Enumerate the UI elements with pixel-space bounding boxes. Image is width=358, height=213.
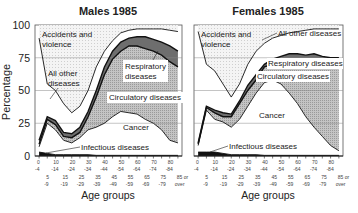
y-tick-100: 100 — [12, 19, 30, 31]
x-tick-label: -9 — [44, 181, 49, 187]
x-tick-label: -34 — [244, 166, 251, 172]
male-cancer-label: Cancer — [123, 123, 149, 132]
x-tick-label: 20 — [70, 159, 76, 165]
x-tick-label: 5 — [205, 174, 208, 180]
x-tick-label: 50 — [279, 159, 285, 165]
x-tick-label: -59 — [126, 181, 133, 187]
x-tick-label: -19 — [61, 181, 68, 187]
x-tick-label: 40 — [262, 159, 268, 165]
male-other-label-2: diseases — [48, 79, 80, 88]
male-infectious-label: Infectious diseases — [81, 143, 149, 152]
x-tick-label: -44 — [260, 166, 267, 172]
y-tick-25: 25 — [18, 117, 30, 129]
x-tick-label: -54 — [277, 166, 284, 172]
x-tick-label: -84 — [326, 166, 333, 172]
x-tick-label: 50 — [119, 159, 125, 165]
x-tick-label: 60 — [135, 159, 141, 165]
male-other-label: All other — [48, 69, 78, 78]
x-tick-label: -54 — [117, 166, 124, 172]
female-infectious-label: Infectious diseases — [229, 142, 297, 151]
x-tick-label: -69 — [142, 181, 149, 187]
x-tick-label: 55 — [128, 174, 134, 180]
females-x-axis-label: Age groups — [241, 189, 295, 201]
male-accidents-label-2: violence — [42, 40, 72, 49]
female-accidents-label-2: violence — [201, 40, 231, 49]
x-tick-label: 5 — [46, 174, 49, 180]
x-tick-label: -14 — [51, 166, 58, 172]
female-cancer-label: Cancer — [259, 111, 285, 120]
x-tick-label: over — [175, 181, 185, 187]
x-tick-label: -39 — [93, 181, 100, 187]
x-tick-label: -59 — [286, 181, 293, 187]
x-tick-label: -24 — [227, 166, 234, 172]
x-tick-label: 70 — [151, 159, 157, 165]
x-tick-label: 60 — [295, 159, 301, 165]
x-tick-label: 75 — [321, 174, 327, 180]
x-tick-label: 25 — [238, 174, 244, 180]
x-tick-label: -4 — [194, 166, 199, 172]
female-other-label: All other diseases — [278, 29, 341, 38]
x-tick-label: -34 — [84, 166, 91, 172]
x-tick-label: 45 — [112, 174, 118, 180]
x-tick-label: 45 — [272, 174, 278, 180]
y-tick-75: 75 — [18, 52, 30, 64]
x-tick-label: 0 — [37, 159, 40, 165]
x-tick-label: 65 — [305, 174, 311, 180]
y-tick-50: 50 — [18, 84, 30, 96]
x-tick-label: 15 — [63, 174, 69, 180]
x-tick-label: 35 — [95, 174, 101, 180]
x-tick-label: 25 — [79, 174, 85, 180]
x-tick-label: -4 — [35, 166, 40, 172]
x-tick-label: -14 — [211, 166, 218, 172]
x-tick-label: -79 — [159, 181, 166, 187]
female-circ-label: Circulatory diseases — [257, 72, 329, 81]
x-tick-label: -39 — [253, 181, 260, 187]
x-tick-label: 30 — [86, 159, 92, 165]
x-tick-label: -64 — [133, 166, 140, 172]
x-tick-label: -79 — [319, 181, 326, 187]
females-panel: 0-45-910-1415-1920-2425-2930-3435-3940-4… — [194, 25, 349, 187]
females-title: Females 1985 — [232, 5, 304, 17]
x-tick-label: -29 — [236, 181, 243, 187]
x-tick-label: -9 — [203, 181, 208, 187]
x-tick-label: -19 — [220, 181, 227, 187]
female-accidents-label: Accidents and — [201, 30, 251, 39]
x-tick-label: 35 — [255, 174, 261, 180]
x-tick-label: 20 — [229, 159, 235, 165]
chart-figure: Percentage 0 25 50 75 100 0-45-910-1415-… — [0, 0, 358, 213]
x-tick-label: 10 — [53, 159, 59, 165]
x-tick-label: -69 — [303, 181, 310, 187]
x-tick-label: -64 — [293, 166, 300, 172]
x-tick-label: 15 — [222, 174, 228, 180]
x-tick-label: 40 — [102, 159, 108, 165]
x-tick-label: -49 — [110, 181, 117, 187]
chart-svg: Percentage 0 25 50 75 100 0-45-910-1415-… — [0, 0, 358, 213]
x-tick-label: 80 — [168, 159, 174, 165]
male-circ-label: Circulatory diseases — [109, 93, 181, 102]
x-tick-label: -44 — [100, 166, 107, 172]
x-tick-label: -84 — [166, 166, 173, 172]
y-tick-0: 0 — [24, 150, 30, 162]
male-resp-label-2: diseases — [125, 72, 157, 81]
x-tick-label: -74 — [310, 166, 317, 172]
x-tick-label: -24 — [68, 166, 75, 172]
male-resp-label: Respiratory — [125, 62, 166, 71]
male-accidents-label: Accidents and — [42, 30, 92, 39]
males-x-axis-label: Age groups — [81, 189, 135, 201]
males-title: Males 1985 — [79, 5, 137, 17]
x-tick-label: 85 or — [338, 174, 350, 180]
x-tick-label: 55 — [288, 174, 294, 180]
x-tick-label: -74 — [149, 166, 156, 172]
x-tick-label: 70 — [312, 159, 318, 165]
x-tick-label: over — [336, 181, 346, 187]
x-tick-label: -29 — [77, 181, 84, 187]
x-tick-label: 65 — [144, 174, 150, 180]
males-panel: 0-45-910-1415-1920-2425-2930-3435-3940-4… — [35, 25, 189, 187]
x-tick-label: 75 — [161, 174, 167, 180]
y-axis-label: Percentage — [0, 64, 12, 120]
x-tick-label: 30 — [246, 159, 252, 165]
female-resp-label: Respiratory diseases — [268, 59, 343, 68]
x-tick-label: 0 — [196, 159, 199, 165]
x-tick-label: 10 — [213, 159, 219, 165]
y-ticks: 0 25 50 75 100 — [12, 19, 30, 162]
